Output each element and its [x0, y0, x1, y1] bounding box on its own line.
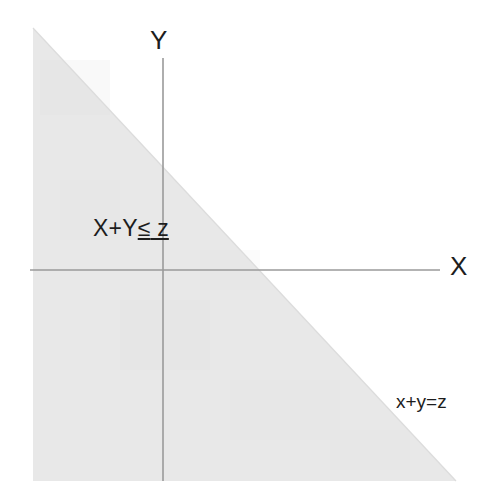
region-label-prefix: X+Y: [93, 215, 138, 241]
region-inequality-label: X+Y≤ z: [93, 217, 169, 240]
x-axis-label: X: [450, 253, 467, 279]
boundary-line-label: x+y=z: [396, 392, 447, 411]
less-than-or-equal-icon: ≤: [138, 215, 151, 241]
y-axis-label: Y: [150, 27, 167, 53]
figure-canvas: Y X X+Y≤ z x+y=z: [0, 0, 487, 489]
plot-graphics: [0, 0, 487, 489]
region-label-suffix: z: [151, 215, 169, 241]
